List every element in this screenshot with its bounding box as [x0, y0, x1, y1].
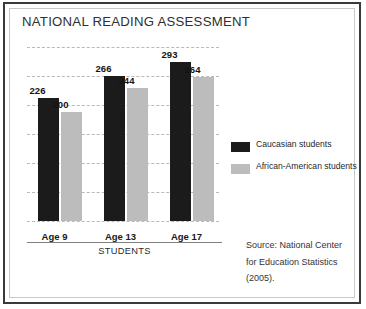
x-axis-title: STUDENTS	[27, 246, 222, 256]
chart-title: NATIONAL READING ASSESSMENT	[22, 14, 250, 29]
bar-african-american-age-17	[193, 77, 214, 221]
legend-label-caucasian: Caucasian students	[256, 139, 331, 149]
bar-caucasian-age-17	[170, 62, 191, 221]
gridline	[27, 221, 219, 222]
category-label-age-9: Age 9	[32, 231, 77, 242]
figure-frame: NATIONAL READING ASSESSMENT 226 200 266 …	[3, 2, 361, 304]
bar-value-caucasian-age-17: 293	[159, 49, 180, 60]
bar-african-american-age-13	[127, 88, 148, 221]
legend-swatch-african-american	[231, 164, 250, 174]
bar-caucasian-age-13	[104, 76, 125, 221]
bar-caucasian-age-9	[38, 98, 59, 221]
bar-value-caucasian-age-9: 226	[27, 85, 48, 96]
x-axis-line	[27, 242, 222, 243]
legend-swatch-caucasian	[231, 142, 250, 152]
bar-value-caucasian-age-13: 266	[93, 63, 114, 74]
bar-value-african-american-age-17: 264	[182, 64, 203, 75]
source-line-3: (2005).	[246, 270, 364, 287]
source-note: Source: National Center for Education St…	[246, 237, 364, 287]
category-label-age-13: Age 13	[98, 231, 143, 242]
bar-value-african-american-age-9: 200	[50, 99, 71, 110]
bar-value-african-american-age-13: 244	[116, 75, 137, 86]
source-line-2: for Education Statistics	[246, 254, 364, 271]
bar-african-american-age-9	[61, 112, 82, 221]
legend-label-african-american: African-American students	[256, 161, 357, 171]
category-label-age-17: Age 17	[164, 231, 209, 242]
source-line-1: Source: National Center	[246, 237, 364, 254]
